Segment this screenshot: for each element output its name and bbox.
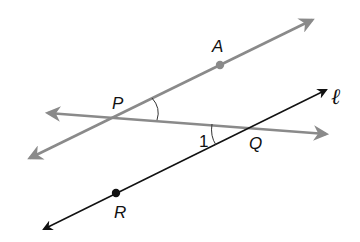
label-line-l: ℓ [331, 86, 340, 108]
label-A: A [212, 38, 223, 55]
line-PQ [48, 113, 326, 134]
label-angle-1: 1 [199, 133, 208, 150]
diagram-svg [0, 0, 360, 242]
label-Q: Q [249, 135, 262, 152]
angle-arc-P [152, 98, 158, 120]
point-R-dot [112, 189, 120, 197]
line-l [44, 90, 326, 229]
label-R: R [114, 204, 126, 221]
label-P: P [112, 95, 123, 112]
point-A-dot [216, 61, 224, 69]
line-PA [30, 20, 312, 158]
angle-arc-1 [212, 124, 217, 145]
geometry-diagram: A P ℓ 1 Q R [0, 0, 360, 242]
